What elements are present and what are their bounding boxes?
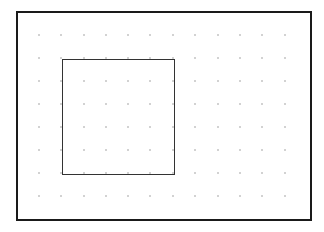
grid-dot bbox=[261, 195, 263, 197]
grid-dot bbox=[172, 57, 174, 59]
grid-dot bbox=[217, 57, 219, 59]
grid-dot bbox=[83, 126, 85, 128]
grid-dot bbox=[217, 126, 219, 128]
grid-dot bbox=[284, 57, 286, 59]
grid-dot bbox=[284, 80, 286, 82]
grid-dot bbox=[239, 195, 241, 197]
grid-dot bbox=[149, 172, 151, 174]
grid-dot bbox=[60, 195, 62, 197]
grid-dot bbox=[60, 103, 62, 105]
grid-dot bbox=[83, 80, 85, 82]
grid-dot bbox=[194, 57, 196, 59]
grid-dot bbox=[60, 57, 62, 59]
grid-dot bbox=[194, 80, 196, 82]
grid-dot bbox=[261, 103, 263, 105]
grid-dot bbox=[284, 103, 286, 105]
grid-dot bbox=[105, 195, 107, 197]
grid-dot bbox=[239, 57, 241, 59]
grid-dot bbox=[83, 149, 85, 151]
dot-grid bbox=[38, 34, 286, 197]
grid-dot bbox=[127, 34, 129, 36]
grid-dot bbox=[149, 80, 151, 82]
grid-dot bbox=[38, 195, 40, 197]
grid-dot bbox=[239, 80, 241, 82]
grid-dot bbox=[239, 103, 241, 105]
grid-dot bbox=[38, 172, 40, 174]
grid-dot bbox=[60, 34, 62, 36]
grid-dot bbox=[217, 195, 219, 197]
grid-dot bbox=[127, 195, 129, 197]
grid-dot bbox=[261, 172, 263, 174]
grid-dot bbox=[60, 80, 62, 82]
grid-dot bbox=[217, 80, 219, 82]
grid-dot bbox=[172, 34, 174, 36]
grid-dot bbox=[284, 195, 286, 197]
grid-dot bbox=[217, 103, 219, 105]
grid-dot bbox=[239, 149, 241, 151]
grid-dot bbox=[172, 80, 174, 82]
grid-dot bbox=[60, 126, 62, 128]
grid-dot bbox=[105, 172, 107, 174]
grid-dot bbox=[127, 149, 129, 151]
outer-frame bbox=[17, 12, 311, 220]
grid-dot bbox=[149, 103, 151, 105]
grid-dot bbox=[239, 126, 241, 128]
grid-dot bbox=[127, 172, 129, 174]
grid-dot bbox=[83, 57, 85, 59]
grid-dot bbox=[105, 80, 107, 82]
grid-dot bbox=[172, 172, 174, 174]
grid-dot bbox=[83, 103, 85, 105]
grid-dot bbox=[105, 34, 107, 36]
grid-dot bbox=[105, 57, 107, 59]
grid-dot bbox=[38, 149, 40, 151]
grid-dot bbox=[105, 149, 107, 151]
grid-dot bbox=[38, 34, 40, 36]
grid-dot bbox=[261, 34, 263, 36]
grid-dot bbox=[38, 103, 40, 105]
grid-dot bbox=[149, 57, 151, 59]
grid-dot bbox=[38, 57, 40, 59]
grid-dot bbox=[217, 172, 219, 174]
grid-dot bbox=[105, 103, 107, 105]
grid-dot bbox=[127, 126, 129, 128]
grid-canvas[interactable] bbox=[0, 0, 324, 232]
grid-dot bbox=[149, 195, 151, 197]
grid-dot bbox=[38, 80, 40, 82]
grid-dot bbox=[60, 149, 62, 151]
grid-dot bbox=[127, 80, 129, 82]
grid-dot bbox=[194, 126, 196, 128]
grid-dot bbox=[172, 149, 174, 151]
grid-dot bbox=[149, 34, 151, 36]
grid-dot bbox=[261, 149, 263, 151]
grid-dot bbox=[261, 80, 263, 82]
grid-dot bbox=[149, 126, 151, 128]
grid-dot bbox=[217, 34, 219, 36]
grid-dot bbox=[239, 172, 241, 174]
grid-dot bbox=[194, 195, 196, 197]
grid-dot bbox=[83, 195, 85, 197]
grid-dot bbox=[60, 172, 62, 174]
grid-dot bbox=[149, 149, 151, 151]
grid-dot bbox=[239, 34, 241, 36]
grid-dot bbox=[83, 172, 85, 174]
grid-dot bbox=[172, 195, 174, 197]
grid-dot bbox=[194, 103, 196, 105]
grid-dot bbox=[194, 172, 196, 174]
grid-dot bbox=[172, 126, 174, 128]
grid-dot bbox=[261, 126, 263, 128]
grid-dot bbox=[284, 149, 286, 151]
grid-dot bbox=[127, 103, 129, 105]
drawn-rectangle[interactable] bbox=[63, 60, 175, 175]
grid-dot bbox=[261, 57, 263, 59]
grid-dot bbox=[217, 149, 219, 151]
grid-dot bbox=[38, 126, 40, 128]
grid-dot bbox=[284, 126, 286, 128]
grid-dot bbox=[194, 34, 196, 36]
grid-dot bbox=[284, 34, 286, 36]
grid-dot bbox=[127, 57, 129, 59]
grid-dot bbox=[284, 172, 286, 174]
grid-dot bbox=[194, 149, 196, 151]
grid-dot bbox=[83, 34, 85, 36]
grid-dot bbox=[105, 126, 107, 128]
grid-dot bbox=[172, 103, 174, 105]
